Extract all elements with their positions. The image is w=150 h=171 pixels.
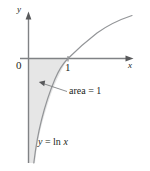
origin-tick-label: 0 <box>16 60 22 71</box>
area-annotation-label: area = 1 <box>69 86 101 96</box>
y-axis-label: y <box>17 5 21 14</box>
curve-equation-label: y = ln x <box>38 137 68 147</box>
x-axis-label: x <box>128 61 132 70</box>
curve-label-x: x <box>63 136 67 147</box>
y-axis-arrowhead-icon <box>26 12 32 20</box>
curve-label-operator: = ln <box>42 136 63 147</box>
figure-container: y x 0 1 area = 1 y = ln x <box>0 0 150 171</box>
x-tick-label-one: 1 <box>65 62 71 73</box>
shaded-area-region <box>29 59 69 164</box>
